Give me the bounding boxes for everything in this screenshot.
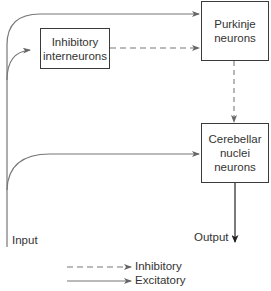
purkinje-label-line2: neurons <box>214 31 256 45</box>
legend-inhibitory-label: Inhibitory <box>135 260 182 272</box>
input-to-interneurons-line <box>7 50 30 80</box>
purkinje-neurons-node: Purkinje neurons <box>201 1 269 61</box>
inhibitory-interneurons-label-line2: interneurons <box>43 49 107 63</box>
inhibitory-interneurons-node: Inhibitory interneurons <box>40 28 110 69</box>
cerebellar-nuclei-label-line3: neurons <box>208 160 261 174</box>
cerebellar-nuclei-neurons-node: Cerebellar nuclei neurons <box>201 123 269 183</box>
output-label: Output <box>194 231 229 243</box>
cerebellar-nuclei-label-line2: nuclei <box>208 146 261 160</box>
input-label: Input <box>12 234 38 246</box>
inhibitory-interneurons-label-line1: Inhibitory <box>43 35 107 49</box>
purkinje-label-line1: Purkinje <box>214 17 256 31</box>
legend-excitatory-label: Excitatory <box>135 274 186 286</box>
input-to-nuclei-line <box>7 154 199 190</box>
cerebellar-nuclei-label-line1: Cerebellar <box>208 132 261 146</box>
